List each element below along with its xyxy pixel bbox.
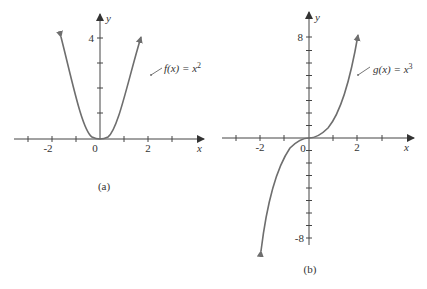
y-tick-label-8-b: 8 xyxy=(298,31,304,43)
caption-b: (b) xyxy=(304,263,317,276)
caption-a: (a) xyxy=(98,180,111,193)
y-axis-label-a: y xyxy=(105,12,111,24)
panel-b: -2 0 2 8 -8 x y g(x) = x3 (b) xyxy=(222,11,414,276)
y-tick-label-4-a: 4 xyxy=(89,32,95,44)
function-label-f: f(x) = x2 xyxy=(164,61,201,75)
leader-dot-b xyxy=(357,74,359,76)
figure-canvas: -2 0 2 4 x y f(x) = x2 (a) xyxy=(0,0,427,289)
leader-line-b xyxy=(358,67,370,75)
x-tick-label-2-b: 2 xyxy=(354,141,360,153)
panel-a: -2 0 2 4 x y f(x) = x2 (a) xyxy=(14,12,204,193)
x-tick-label-2-a: 2 xyxy=(145,142,151,154)
y-tick-label-neg8-b: -8 xyxy=(295,232,305,244)
x-tick-label-0-a: 0 xyxy=(92,142,98,154)
x-tick-label-neg2-a: -2 xyxy=(43,142,52,154)
leader-dot-a xyxy=(150,74,152,76)
function-label-g: g(x) = x3 xyxy=(373,62,413,76)
x-tick-label-0-b: 0 xyxy=(300,142,306,154)
y-axis-label-b: y xyxy=(314,11,320,23)
x-axis-label-b: x xyxy=(403,141,409,153)
x-tick-label-neg2-b: -2 xyxy=(255,141,264,153)
leader-line-a xyxy=(151,68,162,75)
x-axis-label-a: x xyxy=(196,142,202,154)
